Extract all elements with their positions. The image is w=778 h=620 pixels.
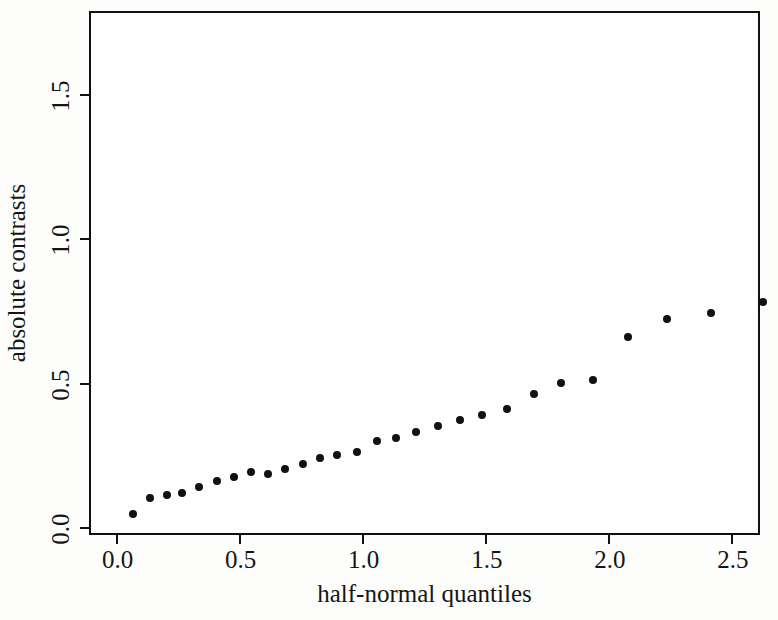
- data-point: [163, 491, 171, 499]
- plot-frame: Al 0.00.51.01.50.00.51.01.52.02.5: [89, 11, 760, 535]
- data-point: [412, 428, 420, 436]
- data-point: [316, 454, 324, 462]
- x-axis-tick-label: 1.5: [471, 547, 502, 572]
- data-point: [129, 510, 137, 518]
- data-point: [434, 422, 442, 430]
- data-point: [759, 298, 767, 306]
- x-axis-tick: 2.5: [731, 533, 733, 544]
- x-axis-tick-label: 0.5: [225, 547, 256, 572]
- data-point: [146, 494, 154, 502]
- x-axis-tick-label: 2.5: [717, 547, 748, 572]
- x-axis-title: half-normal quantiles: [89, 580, 760, 608]
- data-point: [478, 411, 486, 419]
- data-point: [299, 460, 307, 468]
- data-point: [624, 333, 632, 341]
- data-point: [530, 390, 538, 398]
- data-point: [230, 473, 238, 481]
- y-axis-tick: 1.0: [80, 238, 91, 240]
- data-point: [456, 416, 464, 424]
- x-axis-tick: 0.0: [116, 533, 118, 544]
- y-axis-tick-label: 1.0: [48, 225, 73, 256]
- data-point: [557, 379, 565, 387]
- data-point: [707, 309, 715, 317]
- y-axis-tick-label: 1.5: [48, 80, 73, 111]
- y-axis-tick: 0.5: [80, 383, 91, 385]
- x-axis-tick: 2.0: [608, 533, 610, 544]
- x-axis-tick-label: 1.0: [348, 547, 379, 572]
- data-point: [373, 437, 381, 445]
- data-point: [247, 468, 255, 476]
- data-point: [392, 434, 400, 442]
- x-axis-tick: 1.0: [362, 533, 364, 544]
- y-axis-title: absolute contrasts: [0, 11, 34, 535]
- data-point: [195, 483, 203, 491]
- data-point: [503, 405, 511, 413]
- y-axis-tick: 1.5: [80, 94, 91, 96]
- y-axis-tick: 0.0: [80, 527, 91, 529]
- data-point: [178, 489, 186, 497]
- y-axis-tick-label: 0.0: [48, 514, 73, 545]
- half-normal-plot-figure: absolute contrasts Al 0.00.51.01.50.00.5…: [0, 0, 778, 620]
- x-axis-tick: 1.5: [485, 533, 487, 544]
- data-point: [264, 470, 272, 478]
- plot-area: Al: [91, 13, 758, 533]
- y-axis-tick-label: 0.5: [48, 369, 73, 400]
- data-point: [353, 448, 361, 456]
- data-point: [589, 376, 597, 384]
- data-point: [333, 451, 341, 459]
- x-axis-tick: 0.5: [239, 533, 241, 544]
- y-axis-title-text: absolute contrasts: [3, 184, 31, 362]
- data-point: [213, 477, 221, 485]
- x-axis-tick-label: 2.0: [594, 547, 625, 572]
- data-point: [281, 465, 289, 473]
- data-point: [663, 315, 671, 323]
- x-axis-tick-label: 0.0: [102, 547, 133, 572]
